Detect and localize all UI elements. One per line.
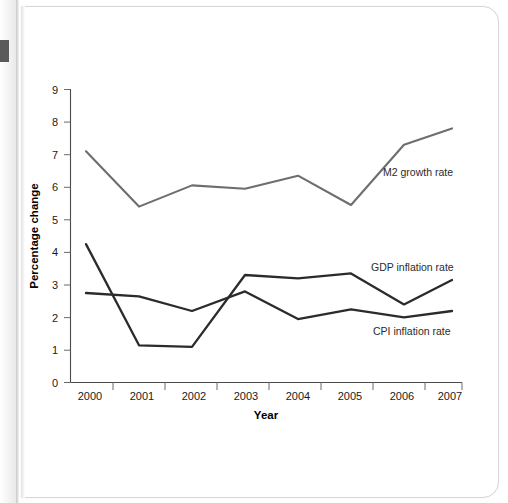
y-tick-label-2: 2 — [52, 312, 58, 324]
y-tick-label-4: 4 — [52, 246, 58, 258]
x-tick-label-2002: 2002 — [182, 390, 206, 402]
y-tick-label-1: 1 — [52, 344, 58, 356]
y-tick-label-9: 9 — [52, 84, 58, 96]
x-axis-title: Year — [254, 409, 279, 421]
y-axis-title: Percentage change — [28, 183, 40, 288]
x-tick-label-2006: 2006 — [390, 390, 414, 402]
series-label-gdp-inflation-rate: GDP inflation rate — [371, 261, 454, 273]
x-tick-label-2005: 2005 — [338, 390, 362, 402]
y-tick-label-8: 8 — [52, 116, 58, 128]
series-label-m2-growth-rate: M2 growth rate — [383, 166, 453, 178]
y-tick-label-6: 6 — [52, 181, 58, 193]
y-axis-ticks — [64, 90, 71, 383]
series-label-cpi-inflation-rate: CPI inflation rate — [373, 325, 451, 337]
y-tick-label-7: 7 — [52, 149, 58, 161]
y-tick-label-0: 0 — [52, 377, 58, 389]
x-tick-label-2007: 2007 — [438, 390, 462, 402]
chart-svg: 9 8 7 6 5 4 3 2 1 0 2000 2001 2002 2003 … — [0, 0, 508, 503]
x-tick-label-2001: 2001 — [130, 390, 154, 402]
x-tick-label-2000: 2000 — [78, 390, 102, 402]
series-line-cpi-inflation-rate — [86, 291, 452, 319]
y-tick-label-3: 3 — [52, 279, 58, 291]
line-chart-figure: 9 8 7 6 5 4 3 2 1 0 2000 2001 2002 2003 … — [0, 0, 508, 503]
x-tick-label-2003: 2003 — [234, 390, 258, 402]
y-tick-label-5: 5 — [52, 214, 58, 226]
x-axis-ticks — [113, 383, 462, 391]
x-tick-label-2004: 2004 — [286, 390, 310, 402]
